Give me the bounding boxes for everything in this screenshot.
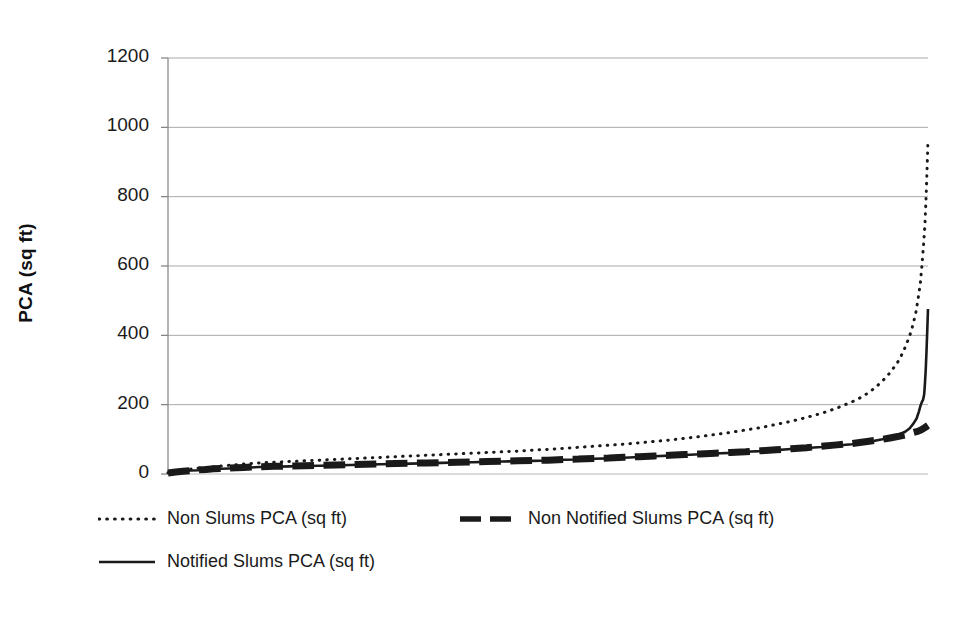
legend-label-non-slums: Non Slums PCA (sq ft) [167,508,347,529]
dashed-line-key [459,512,517,526]
chart-figure: PCA (sq ft) 020040060080010001200 Non Sl… [0,0,974,623]
gridlines [168,58,928,474]
legend-item-non-notified-slums[interactable]: Non Notified Slums PCA (sq ft) [459,508,774,529]
plot-area [0,0,974,623]
axis-lines [161,58,168,474]
solid-line-key [98,555,156,569]
dotted-line-key [98,512,156,526]
legend-row-primary: Non Slums PCA (sq ft) Non Notified Slums… [98,508,774,529]
series-line-0 [168,140,928,472]
legend-item-non-slums[interactable]: Non Slums PCA (sq ft) [98,508,347,529]
legend-item-notified-slums[interactable]: Notified Slums PCA (sq ft) [98,551,375,572]
series-layer [168,140,928,473]
legend-row-secondary: Notified Slums PCA (sq ft) [98,551,375,572]
legend-label-notified-slums: Notified Slums PCA (sq ft) [167,551,375,572]
legend-label-non-notified-slums: Non Notified Slums PCA (sq ft) [528,508,774,529]
